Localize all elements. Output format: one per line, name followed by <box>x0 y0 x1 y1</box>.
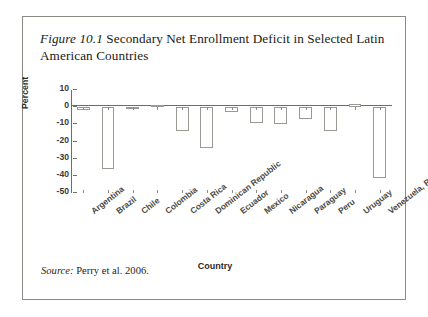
x-axis-category-label: Ecuador <box>238 208 244 216</box>
x-axis-category-label: Brazil <box>114 208 120 216</box>
bar <box>373 107 386 177</box>
y-axis-tick-mark <box>73 175 77 176</box>
x-axis-bottom-tick-mark <box>157 190 158 193</box>
bar <box>102 107 115 169</box>
y-axis-tick-mark <box>73 123 77 124</box>
y-axis-tick: 10 <box>37 85 77 95</box>
x-axis-category-label: Uruguay <box>361 208 367 216</box>
y-axis-tick-mark <box>73 158 77 159</box>
y-axis-title: Percent <box>20 77 30 109</box>
source-note: Source: Perry et al. 2006. <box>41 265 149 276</box>
x-axis-tick-mark <box>232 107 233 110</box>
figure-frame: Figure 10.1 Secondary Net Enrollment Def… <box>22 16 406 300</box>
x-axis-tick-mark <box>83 107 84 110</box>
zero-baseline <box>71 105 392 106</box>
y-axis-tick: 0 <box>37 102 77 112</box>
x-axis-tick-mark <box>306 107 307 110</box>
x-axis-tick-mark <box>182 107 183 110</box>
y-axis-tick-mark <box>73 89 77 90</box>
bar <box>324 107 337 131</box>
y-axis-tick: -50 <box>37 188 77 198</box>
x-axis-category-label: Dominican Republic <box>213 208 219 216</box>
source-citation: Perry et al. 2006. <box>74 265 149 276</box>
chart-axes: 100-10-20-30-40-50 <box>71 90 392 193</box>
x-axis-category-labels: ArgentinaBrazilChileColombiaCosta RicaDo… <box>71 208 401 266</box>
x-axis-tick-mark <box>330 107 331 110</box>
x-axis-bottom-tick-mark <box>133 190 134 193</box>
figure-caption: Figure 10.1 Secondary Net Enrollment Def… <box>40 31 388 64</box>
y-axis-tick-label: 10 <box>59 83 69 93</box>
x-axis-tick-mark <box>355 107 356 110</box>
y-axis-tick: -10 <box>37 119 77 129</box>
x-axis-category-label: Mexico <box>262 208 268 216</box>
x-axis-category-label: Argentina <box>89 208 95 216</box>
x-axis-tick-mark <box>133 107 134 110</box>
y-axis-tick-label: 0 <box>64 100 69 110</box>
x-axis-tick-mark <box>256 107 257 110</box>
x-axis-tick-mark <box>108 107 109 110</box>
x-axis-category-label: Paraguay <box>312 208 318 216</box>
bar <box>200 107 213 148</box>
x-axis-category-label: Venezuela, R. B. de <box>386 208 392 216</box>
chart-plot-region: Percent 100-10-20-30-40-50 ArgentinaBraz… <box>23 75 407 265</box>
x-axis-tick-mark <box>157 107 158 110</box>
x-axis-category-label: Chile <box>139 208 145 216</box>
x-axis-tick-mark <box>281 107 282 110</box>
x-axis-category-label: Peru <box>336 208 342 216</box>
x-axis-tick-mark <box>380 107 381 110</box>
y-axis-tick-mark <box>73 192 77 193</box>
bar <box>176 107 189 131</box>
x-axis-category-label: Costa Rica <box>188 208 194 216</box>
x-axis-bottom-tick-mark <box>83 190 84 193</box>
y-axis-tick-mark <box>73 141 77 142</box>
x-axis-bottom-tick-mark <box>355 190 356 193</box>
figure-number: Figure 10.1 <box>40 31 103 46</box>
y-axis-tick-label: -30 <box>57 152 69 162</box>
y-axis-tick: -40 <box>37 171 77 181</box>
source-label: Source: <box>41 265 74 276</box>
x-axis-tick-mark <box>207 107 208 110</box>
y-axis-tick-label: -10 <box>57 117 69 127</box>
x-axis-category-label: Colombia <box>163 208 169 216</box>
y-axis-tick-label: -50 <box>57 186 69 196</box>
y-axis-tick: -30 <box>37 154 77 164</box>
y-axis-tick-label: -20 <box>57 135 69 145</box>
y-axis-tick: -20 <box>37 137 77 147</box>
y-axis-tick-label: -40 <box>57 169 69 179</box>
x-axis-category-label: Nicaragua <box>287 208 293 216</box>
